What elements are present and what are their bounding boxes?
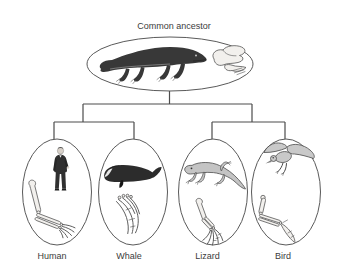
man-head — [57, 148, 63, 154]
tetrapod-eye — [195, 55, 197, 57]
diagram-svg: Common ancestor — [0, 0, 339, 274]
lizard-eye — [191, 167, 193, 169]
tree-connectors — [54, 91, 285, 141]
common-ancestor-node: Common ancestor — [87, 21, 253, 91]
bird-node: Bird — [252, 139, 321, 261]
common-ancestor-label: Common ancestor — [137, 21, 211, 31]
man-hand — [67, 166, 69, 168]
tree-branch-lines — [54, 91, 285, 141]
whale-label: Whale — [116, 251, 142, 261]
bird-head — [271, 156, 277, 162]
bird-label: Bird — [275, 251, 291, 261]
human-label: Human — [37, 251, 66, 261]
flipper-carpal-3 — [126, 194, 129, 197]
flipper-carpal-4 — [130, 195, 133, 198]
whale-node: Whale — [99, 139, 168, 261]
comparative-anatomy-diagram: Common ancestor — [0, 0, 339, 274]
flipper-carpal-2 — [122, 194, 125, 197]
lizard-node: Lizard — [179, 139, 248, 261]
flipper-carpal-1 — [118, 196, 121, 199]
lizard-label: Lizard — [195, 251, 220, 261]
human-node: Human — [23, 139, 92, 261]
bird-eye — [273, 157, 274, 158]
carpal-bones-2 — [59, 226, 61, 228]
